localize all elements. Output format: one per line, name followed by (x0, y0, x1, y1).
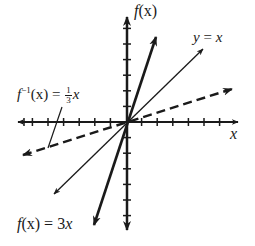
identity-label-eq: = (200, 29, 216, 45)
fraction-denominator: 3 (65, 96, 72, 105)
inverse-label-fraction: 13 (65, 86, 72, 105)
y-axis-label: f(x) (134, 3, 157, 19)
identity-label: y = x (193, 30, 222, 45)
identity-label-lhs: y (193, 29, 200, 45)
inverse-label-arg: (x) = (31, 86, 64, 102)
x-axis-label: x (230, 126, 237, 142)
inverse-label-x: x (73, 86, 80, 102)
function-inverse-graph: f(x) y = x x f−1(x) = 13x f(x) = 3x (0, 0, 255, 246)
function-label: f(x) = 3x (17, 216, 72, 232)
function-label-rest: (x) = 3 (21, 215, 65, 232)
identity-label-rhs: x (216, 29, 223, 45)
inverse-label: f−1(x) = 13x (17, 86, 79, 105)
inverse-label-pointer (48, 107, 62, 148)
inverse-label-sup: −1 (21, 85, 31, 95)
y-axis-label-arg: (x) (138, 2, 157, 19)
function-line-3x (94, 37, 156, 225)
function-label-x: x (65, 215, 72, 232)
